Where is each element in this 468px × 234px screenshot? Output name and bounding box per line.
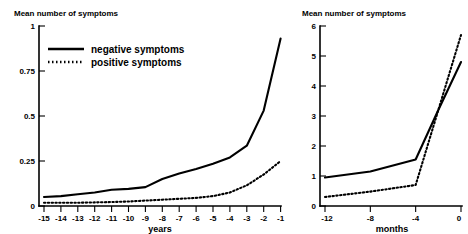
left-x-tick-label: -6 [193, 214, 201, 223]
right-x-tick-label: -8 [367, 214, 375, 223]
left-y-tick-label: 0.5 [24, 112, 36, 121]
left-x-tick-label: -9 [142, 214, 150, 223]
right-x-axis-name: months [376, 224, 409, 234]
left-x-ticks [44, 206, 281, 212]
legend-label-negative-symptoms: negative symptoms [91, 44, 185, 55]
right-x-tick-labels: -12 -8 -4 0 [321, 214, 462, 223]
right-series-negative-symptoms [325, 62, 461, 178]
left-x-tick-label: -2 [260, 214, 268, 223]
left-x-tick-label: -12 [89, 214, 101, 223]
right-x-ticks [325, 206, 461, 212]
right-x-tick-label: -4 [412, 214, 420, 223]
left-x-tick-label: -11 [106, 214, 118, 223]
left-x-tick-label: -13 [72, 214, 84, 223]
right-y-tick-label: 1 [312, 172, 317, 181]
left-x-tick-label: -8 [159, 214, 167, 223]
left-x-tick-label: -5 [209, 214, 217, 223]
legend-label-positive-symptoms: positive symptoms [91, 57, 182, 68]
left-x-tick-label: -15 [38, 214, 50, 223]
right-y-tick-label: 2 [312, 142, 317, 151]
left-x-axis-name: years [148, 224, 172, 234]
figure-two-panel-symptom-trajectories: Mean number of symptoms 1 0.75 0.5 0.25 … [0, 0, 468, 234]
right-x-tick-label: -12 [321, 214, 333, 223]
left-y-tick-label: 0 [31, 202, 36, 211]
left-chart-title: Mean number of symptoms [14, 9, 119, 18]
right-chart-title: Mean number of symptoms [302, 9, 407, 18]
right-y-tick-label: 4 [312, 82, 317, 91]
left-chart-svg: Mean number of symptoms 1 0.75 0.5 0.25 … [0, 0, 292, 234]
left-x-tick-label: -4 [226, 214, 234, 223]
left-y-tick-labels: 1 0.75 0.5 0.25 0 [19, 22, 35, 211]
left-x-tick-label: -14 [55, 214, 67, 223]
right-chart-svg: Mean number of symptoms 6 5 4 3 2 1 0 [292, 0, 468, 234]
right-y-tick-labels: 6 5 4 3 2 1 0 [312, 22, 317, 211]
left-x-tick-label: -7 [176, 214, 184, 223]
left-x-tick-label: -3 [243, 214, 251, 223]
left-x-tick-label: -10 [123, 214, 135, 223]
left-y-tick-label: 1 [31, 22, 36, 31]
right-y-tick-label: 0 [312, 202, 317, 211]
left-x-tick-label: -1 [277, 214, 285, 223]
right-y-ticks [320, 26, 326, 206]
chart-panel-years: Mean number of symptoms 1 0.75 0.5 0.25 … [0, 0, 292, 234]
chart-panel-months: Mean number of symptoms 6 5 4 3 2 1 0 [292, 0, 468, 234]
left-y-ticks [39, 26, 45, 206]
right-y-tick-label: 6 [312, 22, 317, 31]
right-x-tick-label: 0 [457, 214, 462, 223]
left-y-tick-label: 0.75 [19, 67, 35, 76]
left-x-tick-labels: -15 -14 -13 -12 -11 -10 -9 -8 -7 -6 -5 -… [38, 214, 284, 223]
right-series-positive-symptoms [325, 35, 461, 197]
left-series-positive-symptoms [44, 161, 281, 203]
right-y-tick-label: 5 [312, 52, 317, 61]
right-y-tick-label: 3 [312, 112, 317, 121]
left-chart-legend: negative symptoms positive symptoms [48, 44, 185, 68]
left-y-tick-label: 0.25 [19, 157, 35, 166]
